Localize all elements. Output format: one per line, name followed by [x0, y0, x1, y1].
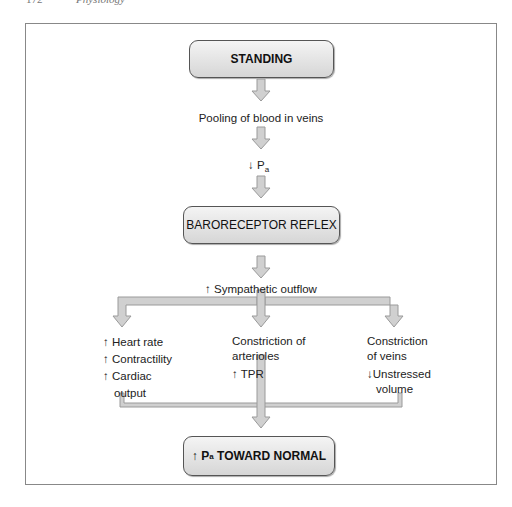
up-arrow-icon: ↑	[103, 370, 109, 382]
left-branch: ↑ Heart rate ↑ Contractility ↑ Cardiac o…	[103, 334, 172, 402]
sympathetic-outflow-text: ↑ Sympathetic outflow	[205, 282, 317, 297]
pa-decrease-text: ↓ Pa	[248, 158, 269, 177]
up-arrow-icon: ↑	[103, 336, 109, 348]
unstressed-label: Unstressed	[373, 368, 431, 380]
pa-subscript: a	[265, 165, 269, 174]
heart-rate-label: Heart rate	[112, 336, 163, 348]
contractility-label: Contractility	[112, 353, 172, 365]
up-arrow-icon: ↑	[192, 449, 198, 463]
standing-label: STANDING	[231, 52, 293, 66]
pa-toward-normal-box: ↑ Pa TOWARD NORMAL	[183, 436, 335, 476]
baroreceptor-reflex-box: BARORECEPTOR REFLEX	[183, 206, 340, 244]
down-arrow-icon	[252, 176, 270, 198]
up-arrow-icon: ↑	[232, 368, 238, 380]
tpr-label: TPR	[241, 368, 264, 380]
tpr-item: ↑ TPR	[232, 367, 306, 382]
toward-normal-label: TOWARD NORMAL	[217, 449, 326, 463]
pa-symbol: P	[201, 449, 209, 463]
unstressed-volume-item: ↓Unstressed	[367, 367, 431, 382]
output-label: output	[114, 387, 146, 399]
down-arrow-icon	[252, 127, 270, 149]
middle-branch: Constriction of arterioles ↑ TPR	[232, 334, 306, 382]
output-line: output	[103, 385, 172, 402]
down-arrow-icon: ↓	[248, 159, 254, 171]
down-arrow-icon	[252, 79, 270, 101]
contractility-item: ↑ Contractility	[103, 351, 172, 368]
pooling-label: Pooling of blood in veins	[199, 112, 324, 124]
heart-rate-item: ↑ Heart rate	[103, 334, 172, 351]
up-arrow-icon: ↑	[205, 283, 211, 295]
constriction-veins-line2: of veins	[367, 349, 431, 364]
cardiac-output-item: ↑ Cardiac	[103, 368, 172, 385]
standing-box: STANDING	[189, 40, 334, 78]
cardiac-label: Cardiac	[112, 370, 152, 382]
constriction-arterioles-line1: Constriction of	[232, 334, 306, 349]
down-arrow-icon	[252, 256, 270, 278]
pa-subscript: a	[209, 452, 213, 461]
baroreceptor-label: BARORECEPTOR REFLEX	[186, 218, 336, 232]
branch-arrow-left	[113, 297, 257, 327]
pa-symbol: P	[257, 159, 265, 171]
branch-arrow-right	[265, 297, 403, 327]
sympathetic-label: Sympathetic outflow	[214, 283, 317, 295]
constriction-arterioles-line2: arterioles	[232, 349, 306, 364]
constriction-veins-line1: Constriction	[367, 334, 431, 349]
volume-label: volume	[367, 382, 431, 397]
up-arrow-icon: ↑	[103, 353, 109, 365]
pooling-text: Pooling of blood in veins	[199, 111, 324, 126]
right-branch: Constriction of veins ↓Unstressed volume	[367, 334, 431, 397]
